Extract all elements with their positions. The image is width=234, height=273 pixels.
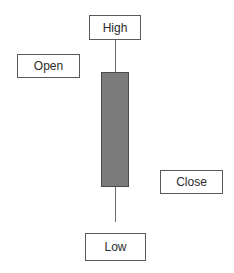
upper-wick — [115, 40, 116, 72]
open-label-box: Open — [17, 54, 80, 78]
open-label: Open — [34, 59, 63, 73]
lower-wick — [115, 187, 116, 222]
low-label-box: Low — [85, 233, 146, 261]
close-label: Close — [176, 175, 207, 189]
low-label: Low — [104, 240, 126, 254]
high-label-box: High — [89, 15, 141, 40]
close-label-box: Close — [160, 170, 223, 194]
candle-body — [101, 72, 129, 187]
high-label: High — [103, 21, 128, 35]
